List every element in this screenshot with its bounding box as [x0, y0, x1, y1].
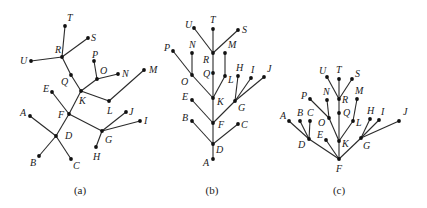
- node-label-S: S: [91, 32, 96, 43]
- node-T: [337, 77, 341, 81]
- node-label-P: P: [300, 90, 307, 101]
- edge-D-C: [213, 124, 238, 144]
- node-label-F: F: [217, 119, 225, 130]
- node-label-A: A: [19, 107, 27, 118]
- node-H: [236, 74, 240, 78]
- node-label-U: U: [319, 65, 327, 76]
- edge-K-O: [81, 79, 97, 91]
- node-label-R: R: [54, 44, 61, 55]
- node-label-B: B: [30, 157, 36, 168]
- edge-G-H: [96, 131, 102, 147]
- node-label-A: A: [279, 110, 287, 121]
- node-L: [223, 74, 227, 78]
- edge-K-O: [329, 118, 339, 141]
- node-label-G: G: [363, 140, 370, 151]
- node-L: [107, 99, 111, 103]
- edge-G-J: [361, 121, 399, 138]
- node-label-P: P: [91, 49, 98, 60]
- node-label-L: L: [106, 105, 113, 116]
- node-label-E: E: [181, 91, 188, 102]
- edge-R-S: [62, 38, 88, 57]
- node-J: [397, 119, 401, 123]
- edge-R-T: [62, 26, 65, 57]
- node-T: [211, 27, 215, 31]
- node-A: [211, 157, 215, 161]
- node-K: [211, 96, 215, 100]
- node-B: [190, 119, 194, 123]
- node-label-M: M: [148, 64, 158, 75]
- node-T: [63, 24, 67, 28]
- node-label-Q: Q: [343, 107, 351, 118]
- node-label-J: J: [129, 106, 134, 117]
- node-S: [350, 77, 354, 81]
- node-label-C: C: [307, 107, 314, 118]
- node-J: [262, 75, 266, 79]
- edge-D-C: [309, 121, 310, 139]
- node-M: [223, 51, 227, 55]
- node-label-L: L: [227, 74, 234, 85]
- node-label-B: B: [182, 112, 188, 123]
- edge-D-A: [289, 121, 309, 139]
- edge-D-B: [39, 136, 56, 156]
- node-label-I: I: [250, 64, 255, 75]
- node-R: [337, 97, 341, 101]
- node-O: [190, 73, 194, 77]
- node-G: [100, 129, 104, 133]
- node-E: [50, 90, 54, 94]
- node-label-D: D: [215, 144, 224, 155]
- node-label-K: K: [341, 138, 350, 149]
- node-label-O: O: [100, 65, 107, 76]
- panel-caption: (b): [206, 184, 219, 197]
- node-label-F: F: [335, 163, 343, 174]
- node-B: [298, 119, 302, 123]
- node-I: [138, 119, 142, 123]
- node-O: [327, 116, 331, 120]
- node-A: [28, 114, 32, 118]
- edge-R-U: [31, 57, 62, 61]
- node-label-S: S: [355, 68, 360, 79]
- node-label-K: K: [78, 95, 87, 106]
- node-label-O: O: [318, 117, 325, 128]
- node-R: [60, 55, 64, 59]
- node-label-C: C: [241, 119, 248, 130]
- node-R: [211, 51, 215, 55]
- node-label-N: N: [121, 68, 130, 79]
- node-label-U: U: [20, 55, 28, 66]
- node-C: [236, 122, 240, 126]
- node-label-Q: Q: [61, 76, 69, 87]
- node-label-G: G: [105, 134, 112, 145]
- edge-D-A: [30, 116, 56, 136]
- node-label-H: H: [92, 151, 101, 162]
- node-label-N: N: [188, 39, 197, 50]
- node-G: [233, 99, 237, 103]
- node-label-I: I: [143, 115, 148, 126]
- edge-O-P: [173, 51, 192, 75]
- node-label-U: U: [185, 19, 193, 30]
- node-D: [211, 142, 215, 146]
- edge-K-L: [213, 76, 225, 98]
- node-label-M: M: [354, 85, 364, 96]
- node-label-Q: Q: [203, 68, 211, 79]
- node-label-G: G: [238, 102, 245, 113]
- edge-O-P: [94, 61, 97, 79]
- node-label-J: J: [403, 106, 408, 117]
- edge-R-Q: [62, 57, 71, 75]
- node-N: [116, 72, 120, 76]
- edge-F-D: [309, 139, 339, 159]
- node-label-F: F: [57, 109, 65, 120]
- node-label-L: L: [355, 117, 362, 128]
- node-label-N: N: [322, 86, 331, 97]
- node-label-E: E: [42, 83, 49, 94]
- node-label-T: T: [67, 12, 74, 23]
- node-N: [190, 51, 194, 55]
- node-label-I: I: [380, 106, 385, 117]
- node-I: [377, 118, 381, 122]
- node-P: [171, 49, 175, 53]
- node-label-H: H: [235, 62, 244, 73]
- node-label-H: H: [366, 105, 375, 116]
- node-S: [86, 36, 90, 40]
- node-label-R: R: [341, 94, 348, 105]
- edge-D-B: [192, 121, 213, 144]
- node-J: [124, 110, 128, 114]
- node-label-T: T: [336, 64, 343, 75]
